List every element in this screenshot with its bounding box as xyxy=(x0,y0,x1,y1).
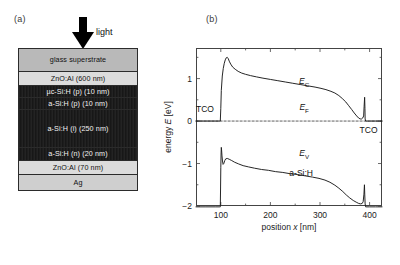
x-axis-label: position x [nm] xyxy=(196,222,382,232)
figure-root: (a) (b) light glass superstrate ZnO:Al (… xyxy=(0,0,400,265)
tco-right-label: TCO xyxy=(360,125,378,135)
layer-label: Ag xyxy=(74,179,83,186)
band-diagram-plot: 10−1−2 100200300400 TCOTCOECEFEVa-Si:H e… xyxy=(196,48,382,206)
x-tick-label: 100 xyxy=(214,210,228,220)
layer-zno-al-600: ZnO:Al (600 nm) xyxy=(18,71,138,85)
layer-a-si-h-i: a-Si:H (i) (250 nm) xyxy=(18,109,138,147)
layer-label: µc-Si:H (p) (10 nm) xyxy=(46,88,109,95)
layer-label: glass superstrate xyxy=(50,56,106,63)
fermi-level-label: EF xyxy=(299,102,308,114)
layer-uc-si-h-p: µc-Si:H (p) (10 nm) xyxy=(18,85,138,97)
arrow-head xyxy=(72,32,94,49)
tco-left-label: TCO xyxy=(196,104,214,114)
x-tick-label: 400 xyxy=(363,210,377,220)
layer-label: ZnO:Al (70 nm) xyxy=(53,164,104,171)
layer-zno-al-70: ZnO:Al (70 nm) xyxy=(18,160,138,174)
layer-label: a-Si:H (i) (250 nm) xyxy=(47,125,108,132)
series-e-c xyxy=(196,57,382,121)
plot-canvas xyxy=(196,48,382,206)
valence-band-label: EV xyxy=(299,148,309,160)
light-label: light xyxy=(96,27,113,37)
y-axis-label: energy E [eV] xyxy=(163,101,173,153)
y-tick-label: −2 xyxy=(182,201,192,211)
layer-label: a-Si:H (n) (20 nm) xyxy=(48,150,107,157)
layer-label: ZnO:Al (600 nm) xyxy=(51,75,106,82)
conduction-band-label: EC xyxy=(299,76,309,88)
layer-a-si-h-n: a-Si:H (n) (20 nm) xyxy=(18,147,138,160)
device-layer-stack: glass superstrate ZnO:Al (600 nm) µc-Si:… xyxy=(18,48,138,191)
x-tick-label: 300 xyxy=(313,210,327,220)
x-tick-label: 200 xyxy=(263,210,277,220)
y-tick-label: 1 xyxy=(187,74,192,84)
y-tick-label: 0 xyxy=(187,116,192,126)
layer-ag: Ag xyxy=(18,174,138,191)
y-tick-label: −1 xyxy=(182,159,192,169)
panel-a-letter: (a) xyxy=(14,14,26,24)
panel-b-letter: (b) xyxy=(206,14,218,24)
absorber-label: a-Si:H xyxy=(289,168,313,178)
light-arrow-icon xyxy=(72,17,94,49)
layer-a-si-h-p: a-Si:H (p) (10 nm) xyxy=(18,97,138,109)
layer-label: a-Si:H (p) (10 nm) xyxy=(48,100,107,107)
layer-glass-superstrate: glass superstrate xyxy=(18,48,138,71)
